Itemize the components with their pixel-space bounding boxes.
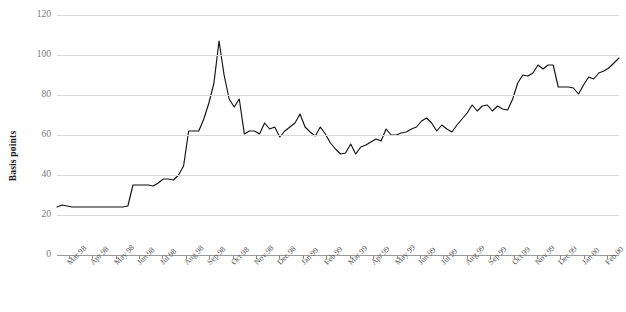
gridline-20: [57, 215, 619, 216]
y-tick-label-0: 0: [17, 250, 51, 260]
y-tick-label-120: 120: [17, 10, 51, 20]
y-axis-title: Basis points: [2, 0, 24, 312]
gridline-40: [57, 175, 619, 176]
gridline-60: [57, 135, 619, 136]
plot-area: 020406080100120Mar 98Apr 98May 98Jun 98J…: [57, 15, 619, 255]
gridline-80: [57, 95, 619, 96]
gridline-100: [57, 55, 619, 56]
gridline-120: [57, 15, 619, 16]
y-tick-label-20: 20: [17, 210, 51, 220]
y-tick-label-40: 40: [17, 170, 51, 180]
y-tick-label-60: 60: [17, 130, 51, 140]
y-tick-label-100: 100: [17, 50, 51, 60]
y-tick-label-80: 80: [17, 90, 51, 100]
